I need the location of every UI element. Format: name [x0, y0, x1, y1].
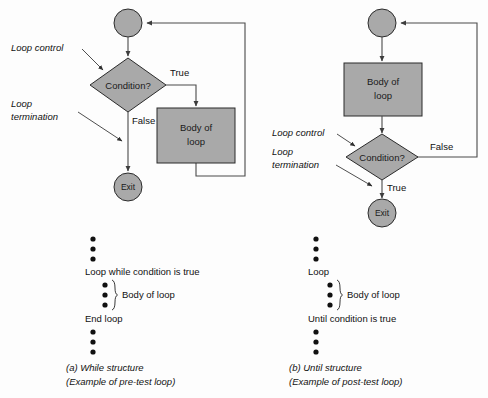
b-caption-line2: (Example of post-test loop) — [289, 376, 403, 387]
a-start-node — [114, 9, 142, 37]
b-body-dot-2 — [327, 292, 332, 297]
b-leading-dot-2 — [313, 246, 318, 251]
a-trailing-dot-1 — [90, 329, 95, 334]
b-body-dot-1 — [327, 282, 332, 287]
a-caption-line2: (Example of pre-test loop) — [66, 376, 175, 387]
a-body-of-loop-label: Body of loop — [122, 289, 175, 300]
a-body-dot-3 — [102, 302, 107, 307]
diagram-b-until-structure: False Body of loop Condition? True Exit … — [272, 9, 477, 227]
a-loop-control-leader — [82, 49, 103, 70]
a-loop-control-annotation: Loop control — [11, 42, 64, 53]
b-trailing-dot-1 — [313, 329, 318, 334]
a-true-label: True — [170, 67, 189, 78]
a-true-branch-connector — [166, 85, 196, 106]
a-trailing-dot-2 — [90, 339, 95, 344]
a-body-brace — [112, 280, 118, 310]
a-body-dot-2 — [102, 292, 107, 297]
a-loop-termination-annotation-line1: Loop — [11, 98, 32, 109]
b-body-dot-3 — [327, 302, 332, 307]
a-loop-termination-annotation-line2: termination — [11, 111, 58, 122]
b-body-label-line2: loop — [374, 90, 392, 101]
b-trailing-dot-2 — [313, 339, 318, 344]
pseudocode-b: Loop Body of loop Until condition is tru… — [289, 236, 403, 386]
b-code-line-until: Until condition is true — [308, 313, 396, 324]
a-leading-dot-1 — [90, 236, 95, 241]
b-false-label: False — [430, 141, 453, 152]
a-condition-label: Condition? — [105, 80, 150, 91]
b-body-brace — [337, 280, 343, 310]
b-leading-dot-3 — [313, 256, 318, 261]
diagram-a-while-structure: Condition? True Body of loop False Exit … — [11, 9, 245, 201]
a-false-label: False — [132, 115, 155, 126]
a-loop-termination-leader — [78, 112, 122, 141]
a-code-line-loop-while: Loop while condition is true — [85, 266, 200, 277]
a-body-dot-1 — [102, 282, 107, 287]
b-exit-label: Exit — [375, 208, 390, 218]
a-body-label-line1: Body of — [180, 122, 213, 133]
a-leading-dot-2 — [90, 246, 95, 251]
pseudocode-a: Loop while condition is true Body of loo… — [66, 236, 200, 386]
b-loop-control-annotation: Loop control — [272, 127, 325, 138]
b-code-line-loop: Loop — [308, 266, 329, 277]
b-loop-termination-annotation-line2: termination — [272, 159, 319, 170]
flowchart-canvas: Condition? True Body of loop False Exit … — [0, 0, 488, 398]
b-loop-control-leader — [337, 134, 355, 146]
b-trailing-dot-3 — [313, 349, 318, 354]
b-body-of-loop-label: Body of loop — [347, 289, 400, 300]
b-leading-dot-1 — [313, 236, 318, 241]
b-body-label-line1: Body of — [367, 76, 400, 87]
flowchart-figure: Condition? True Body of loop False Exit … — [0, 0, 488, 398]
b-loop-termination-annotation-line1: Loop — [272, 146, 293, 157]
b-condition-label: Condition? — [359, 152, 404, 163]
a-trailing-dot-3 — [90, 349, 95, 354]
b-start-node — [368, 9, 396, 37]
a-body-label-line2: loop — [187, 136, 205, 147]
b-true-label: True — [387, 182, 406, 193]
b-caption-line1: (b) Until structure — [289, 362, 362, 373]
a-exit-label: Exit — [121, 182, 136, 192]
a-caption-line1: (a) While structure — [66, 362, 144, 373]
a-code-line-end-loop: End loop — [85, 313, 123, 324]
a-leading-dot-3 — [90, 256, 95, 261]
